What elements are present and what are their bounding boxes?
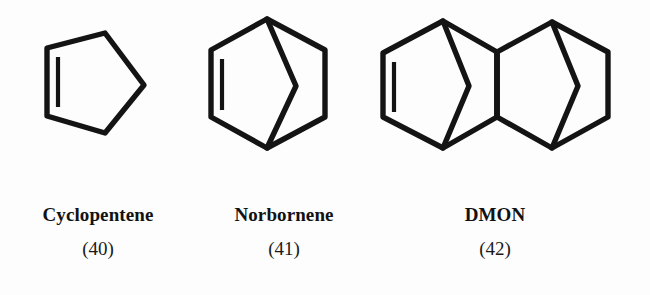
structure-dmon	[383, 21, 608, 148]
caption-cyclopentene: Cyclopentene (40)	[0, 205, 196, 259]
dmon-left-methano-bridge	[443, 21, 469, 148]
compound-name-cyclopentene: Cyclopentene	[0, 205, 196, 225]
caption-dmon: DMON (42)	[390, 205, 600, 259]
caption-norbornene: Norbornene (41)	[196, 205, 372, 259]
structure-cyclopentene	[47, 33, 144, 133]
norbornene-methano-bridge	[267, 19, 296, 148]
structure-norbornene	[211, 19, 325, 148]
norbornene-ring	[211, 19, 325, 148]
compound-number-norbornene: (41)	[196, 239, 372, 259]
dmon-right-ring	[497, 22, 608, 148]
dmon-right-methano-bridge	[552, 22, 578, 148]
figure-canvas: Cyclopentene (40) Norbornene (41) DMON (…	[0, 0, 650, 295]
compound-number-cyclopentene: (40)	[0, 239, 196, 259]
compound-name-norbornene: Norbornene	[196, 205, 372, 225]
compound-number-dmon: (42)	[390, 239, 600, 259]
compound-name-dmon: DMON	[390, 205, 600, 225]
dmon-left-ring	[383, 21, 497, 148]
cyclopentene-ring	[47, 33, 144, 133]
